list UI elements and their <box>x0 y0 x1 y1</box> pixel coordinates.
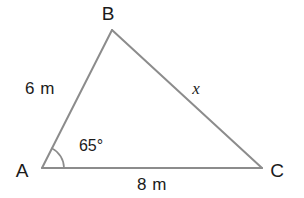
vertex-label-c: C <box>270 161 284 180</box>
angle-label-a: 65° <box>79 138 103 154</box>
angle-arc-a <box>52 148 64 168</box>
triangle-diagram: A B C 6 m x 8 m 65° <box>0 0 304 198</box>
side-label-ab: 6 m <box>25 80 55 97</box>
vertex-label-a: A <box>16 161 29 180</box>
side-label-bc: x <box>192 80 200 97</box>
vertex-label-b: B <box>102 4 115 23</box>
triangle-side-bc <box>112 30 262 168</box>
side-label-ac: 8 m <box>137 176 167 193</box>
triangle-drawing <box>0 0 304 198</box>
